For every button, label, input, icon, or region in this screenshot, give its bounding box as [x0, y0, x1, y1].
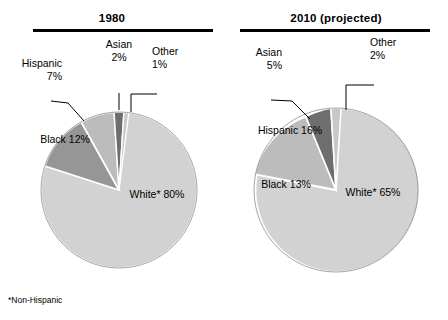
inner-label-black-name-2010: Black: [261, 178, 287, 190]
footnote-non-hispanic: *Non-Hispanic: [8, 295, 62, 305]
inner-label-black-pct-2010: 13%: [290, 178, 311, 190]
inner-label-black-2010: Black 13%: [257, 178, 315, 191]
callout-asian-name-1980: Asian: [106, 38, 132, 50]
inner-label-hispanic-pct-2010: 16%: [301, 124, 322, 136]
inner-label-white-pct-2010: 65%: [379, 186, 400, 198]
leader-line-hispanic-1980: [51, 101, 84, 121]
callout-asian-2010: Asian 5%: [224, 46, 282, 71]
callout-hispanic-pct-1980: 7%: [0, 70, 62, 83]
callout-hispanic-1980: Hispanic 7%: [0, 57, 62, 82]
panel-2010: 2010 (projected) Asian: [224, 0, 448, 300]
inner-label-hispanic-name-2010: Hispanic: [258, 124, 298, 136]
inner-label-white-name-2010: White*: [346, 186, 377, 198]
leader-line-other-1980: [131, 94, 157, 112]
callout-asian-pct-2010: 5%: [224, 59, 282, 72]
inner-label-black-pct-1980: 12%: [69, 133, 90, 145]
callout-other-2010: Other 2%: [370, 36, 434, 61]
callout-other-1980: Other 1%: [152, 45, 216, 70]
leader-line-asian-2010: [271, 100, 310, 119]
inner-label-black-1980: Black 12%: [36, 133, 94, 146]
callout-asian-name-2010: Asian: [256, 46, 282, 58]
inner-label-hispanic-2010: Hispanic 16%: [252, 124, 328, 137]
callout-other-name-1980: Other: [152, 45, 178, 57]
callout-asian-pct-1980: 2%: [88, 51, 150, 64]
callout-other-pct-1980: 1%: [152, 58, 216, 71]
two-pie-comparison-figure: 1980 Asian: [0, 0, 448, 320]
inner-label-white-pct-1980: 80%: [163, 188, 184, 200]
leader-line-other-2010: [346, 85, 374, 110]
inner-label-white-1980: White* 80%: [125, 188, 189, 201]
inner-label-white-name-1980: White*: [130, 188, 161, 200]
callout-hispanic-name-1980: Hispanic: [22, 57, 62, 69]
callout-other-name-2010: Other: [370, 36, 396, 48]
inner-label-black-name-1980: Black: [40, 133, 66, 145]
callout-other-pct-2010: 2%: [370, 49, 434, 62]
pie-chart-2010: Asian 5% Other 2% Hispanic 16% Black 13%…: [224, 0, 448, 300]
callout-asian-1980: Asian 2%: [88, 38, 150, 63]
pie-chart-1980: Asian 2% Other 1% Hispanic 7% Black 12% …: [0, 0, 224, 300]
inner-label-white-2010: White* 65%: [341, 186, 405, 199]
panel-1980: 1980 Asian: [0, 0, 224, 300]
